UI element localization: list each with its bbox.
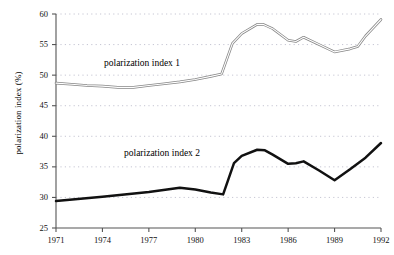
data-series-group xyxy=(56,20,381,202)
x-tick-label: 1989 xyxy=(318,236,352,245)
plot-area xyxy=(0,0,394,255)
series-2-annotation: polarization index 2 xyxy=(124,148,200,158)
y-tick-label: 55 xyxy=(28,40,48,49)
y-tick-label: 40 xyxy=(28,132,48,141)
gridlines xyxy=(56,14,381,197)
y-tick-label: 25 xyxy=(28,224,48,233)
y-tick-label: 35 xyxy=(28,162,48,171)
series-1-annotation: polarization index 1 xyxy=(104,58,180,68)
series-line-1 xyxy=(56,20,381,88)
x-tick-label: 1977 xyxy=(132,236,166,245)
y-axis-title: polarization index (%) xyxy=(13,48,23,178)
x-tick-label: 1992 xyxy=(364,236,394,245)
x-tick-label: 1974 xyxy=(85,236,119,245)
x-tick-label: 1983 xyxy=(225,236,259,245)
x-tick-label: 1971 xyxy=(39,236,73,245)
y-tick-label: 30 xyxy=(28,193,48,202)
y-tick-label: 60 xyxy=(28,10,48,19)
series-line-2 xyxy=(56,143,381,201)
x-tick-label: 1980 xyxy=(178,236,212,245)
axis-tick-marks xyxy=(52,14,381,232)
y-tick-label: 45 xyxy=(28,101,48,110)
x-tick-label: 1986 xyxy=(271,236,305,245)
y-tick-label: 50 xyxy=(28,71,48,80)
chart-container: polarization index (%) 2530354045505560 … xyxy=(0,0,394,255)
